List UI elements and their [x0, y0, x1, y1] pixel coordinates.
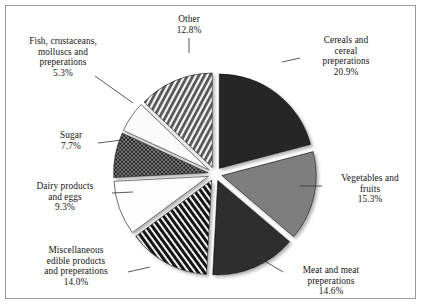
label-dairy-line2: and eggs — [18, 192, 112, 203]
label-sugar-percent: 7.7% — [45, 141, 97, 152]
pie-slices-group — [114, 73, 317, 275]
label-cereals-percent: 20.9% — [300, 67, 392, 78]
label-cereals-line1: Cereals and — [300, 35, 392, 46]
label-dairy-line1: Dairy products — [18, 181, 112, 192]
label-miscellaneous-percent: 14.0% — [24, 277, 128, 288]
label-miscellaneous-line3: and preperations — [24, 266, 128, 277]
label-dairy: Dairy products and eggs 9.3% — [18, 181, 112, 213]
pie-chart-figure: Other 12.8% Fish, crustaceans, molluscs … — [0, 0, 423, 306]
label-fish-line2: molluscs and — [4, 47, 122, 58]
label-miscellaneous-line1: Miscellaneous — [24, 245, 128, 256]
label-sugar: Sugar 7.7% — [45, 130, 97, 151]
label-vegetables-line2: fruits — [324, 184, 416, 195]
label-fish-line3: preperations — [4, 57, 122, 68]
leader-line-misc — [128, 267, 150, 272]
label-meat-line1: Meat and meat — [285, 265, 377, 276]
label-vegetables-line1: Vegetables and — [324, 173, 416, 184]
label-other-percent: 12.8% — [156, 25, 222, 36]
label-miscellaneous-line2: edible products — [24, 256, 128, 267]
label-cereals-line3: preperations — [300, 56, 392, 67]
leader-line-fish — [95, 76, 133, 103]
pie-slice-cereals[interactable] — [219, 74, 310, 169]
label-vegetables-percent: 15.3% — [324, 194, 416, 205]
leader-line-cereals — [282, 58, 300, 62]
label-meat: Meat and meat preperations 14.6% — [285, 265, 377, 297]
label-vegetables: Vegetables and fruits 15.3% — [324, 173, 416, 205]
label-fish-line1: Fish, crustaceans, — [4, 36, 122, 47]
label-meat-line2: preperations — [285, 276, 377, 287]
label-cereals-line2: cereal — [300, 46, 392, 57]
label-miscellaneous: Miscellaneous edible products and preper… — [24, 245, 128, 287]
label-other-line1: Other — [156, 14, 222, 25]
label-fish-percent: 5.3% — [4, 68, 122, 79]
label-fish: Fish, crustaceans, molluscs and preperat… — [4, 36, 122, 78]
leader-line-meat — [258, 257, 283, 272]
label-dairy-percent: 9.3% — [18, 202, 112, 213]
label-cereals: Cereals and cereal preperations 20.9% — [300, 35, 392, 77]
label-other: Other 12.8% — [156, 14, 222, 35]
label-sugar-line1: Sugar — [45, 130, 97, 141]
label-meat-percent: 14.6% — [285, 286, 377, 297]
